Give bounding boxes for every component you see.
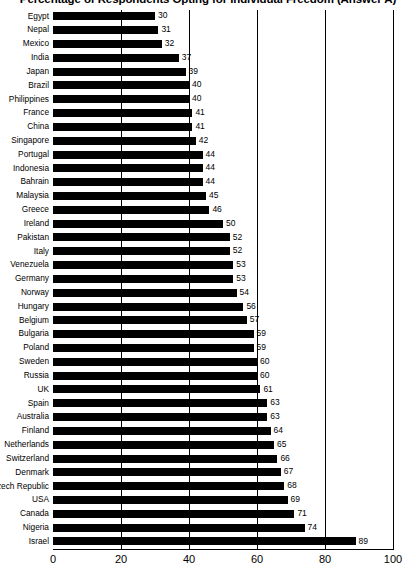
bar [53,261,233,269]
category-label: Nepal [27,23,49,35]
bar-value-label: 42 [199,135,208,146]
bar [53,192,206,200]
category-label: Egypt [28,10,49,22]
bar-value-label: 50 [226,218,235,229]
category-label: Nigeria [23,521,49,533]
bar [53,233,230,241]
category-label: Czech Republic [0,480,49,492]
bar-chart: Percentage of Respondents Opting for Ind… [0,0,416,573]
bar-value-label: 64 [274,425,283,436]
x-tick-label-40: 40 [183,553,195,565]
bar-value-label: 57 [250,314,259,325]
category-label: USA [32,493,49,505]
bar [53,455,277,463]
bar [53,68,186,76]
category-label: Bulgaria [19,327,49,339]
category-label: Israel [29,535,49,547]
bar-row: Switzerland66 [53,452,393,466]
bar-row: Canada71 [53,508,393,522]
bar-row: USA69 [53,494,393,508]
gridline-100 [393,10,394,549]
category-label: Venezuela [10,258,49,270]
bar-row: Australia63 [53,411,393,425]
category-label: Pakistan [17,231,49,243]
bar-row: Russia60 [53,369,393,383]
bar [53,137,196,145]
category-label: Philippines [9,93,49,105]
category-label: Russia [24,369,49,381]
bar-value-label: 89 [359,536,368,547]
bar [53,164,203,172]
bar [53,427,271,435]
bar-row: Japan39 [53,65,393,79]
category-label: Switzerland [6,452,49,464]
bar [53,358,257,366]
bar [53,206,209,214]
bar-value-label: 60 [260,370,269,381]
bar-value-label: 46 [212,204,221,215]
bar-row: Sweden60 [53,356,393,370]
category-label: Greece [22,203,49,215]
bar [53,81,189,89]
bar-value-label: 41 [195,121,204,132]
bar [53,12,155,20]
bar-row: Israel89 [53,535,393,549]
bar-row: Italy52 [53,245,393,259]
bar [53,220,223,228]
bar-value-label: 60 [260,356,269,367]
bar-value-label: 59 [257,342,266,353]
bar-value-label: 41 [195,107,204,118]
bar-row: China41 [53,121,393,135]
category-label: Japan [26,65,49,77]
bar [53,316,247,324]
x-tick-label-0: 0 [50,553,56,565]
bar [53,330,254,338]
bar [53,344,254,352]
bar-value-label: 40 [192,79,201,90]
bar [53,123,192,131]
category-label: Denmark [15,466,49,478]
bar [53,303,243,311]
bar-value-label: 45 [209,190,218,201]
bar-row: Spain63 [53,397,393,411]
bar-row: Venezuela53 [53,259,393,273]
bar-value-label: 65 [277,439,286,450]
category-label: Spain [28,397,49,409]
bar-row: Singapore42 [53,134,393,148]
bar-value-label: 52 [233,245,242,256]
bar-row: Nigeria74 [53,521,393,535]
bar-value-label: 63 [270,411,279,422]
x-tick-label-60: 60 [251,553,263,565]
bar-row: Philippines40 [53,93,393,107]
bar [53,468,281,476]
bar-row: Egypt30 [53,10,393,24]
bar-value-label: 44 [206,176,215,187]
bar [53,482,284,490]
bar-value-label: 39 [189,66,198,77]
bar [53,413,267,421]
category-label: Finland [22,424,49,436]
bar-value-label: 32 [165,38,174,49]
bar-row: Portugal44 [53,148,393,162]
x-axis-line [53,549,394,550]
bar-value-label: 71 [297,508,306,519]
bar-value-label: 68 [287,480,296,491]
category-label: Ireland [24,217,49,229]
category-label: Brazil [28,79,49,91]
bar-value-label: 53 [236,259,245,270]
category-label: UK [37,383,49,395]
bar-value-label: 44 [206,149,215,160]
category-label: Belgium [19,314,49,326]
bar-value-label: 61 [263,384,272,395]
bar-row: Greece46 [53,203,393,217]
bar-row: Nepal31 [53,24,393,38]
bar-row: Malaysia45 [53,190,393,204]
bar-row: Poland59 [53,342,393,356]
category-label: Malaysia [16,189,49,201]
category-label: Portugal [18,148,49,160]
bar-row: Belgium57 [53,314,393,328]
bar-value-label: 69 [291,494,300,505]
bar [53,385,260,393]
bar-row: Ireland50 [53,217,393,231]
bar-value-label: 31 [161,24,170,35]
